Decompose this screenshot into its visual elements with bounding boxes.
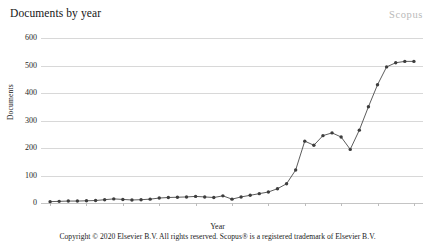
page-title: Documents by year bbox=[10, 7, 101, 19]
x-tick-mark-2020 bbox=[414, 203, 415, 206]
data-point-2010 bbox=[321, 134, 324, 137]
documents-by-year-chart-card: Documents by year Scopus Documents 01002… bbox=[0, 0, 435, 245]
data-point-1989 bbox=[130, 198, 133, 201]
x-axis-title: Year bbox=[0, 222, 435, 231]
x-tick-mark-1992 bbox=[159, 203, 160, 206]
data-point-2018 bbox=[394, 61, 397, 64]
data-point-1985 bbox=[94, 199, 97, 202]
y-tick-400: 400 bbox=[25, 89, 37, 97]
data-point-1981 bbox=[57, 200, 60, 203]
y-tick-300: 300 bbox=[25, 117, 37, 125]
data-point-2016 bbox=[376, 83, 379, 86]
x-tick-mark-2012 bbox=[341, 203, 342, 206]
x-tick-mark-1984 bbox=[86, 203, 87, 206]
y-tick-100: 100 bbox=[25, 172, 37, 180]
data-point-1999 bbox=[221, 194, 224, 197]
scopus-watermark: Scopus bbox=[389, 9, 423, 20]
data-point-2006 bbox=[285, 182, 288, 185]
y-tick-200: 200 bbox=[25, 144, 37, 152]
data-point-1983 bbox=[76, 199, 79, 202]
data-point-1982 bbox=[67, 199, 70, 202]
data-point-2019 bbox=[403, 60, 406, 63]
data-point-2015 bbox=[367, 105, 370, 108]
data-point-2013 bbox=[349, 148, 352, 151]
data-point-1990 bbox=[139, 198, 142, 201]
data-point-2004 bbox=[267, 190, 270, 193]
y-axis-title: Documents bbox=[6, 84, 15, 120]
x-tick-mark-2008 bbox=[305, 203, 306, 206]
y-tick-0: 0 bbox=[33, 199, 37, 207]
x-tick-mark-2004 bbox=[268, 203, 269, 206]
data-point-2000 bbox=[230, 197, 233, 200]
copyright-notice: Copyright © 2020 Elsevier B.V. All right… bbox=[0, 232, 435, 241]
x-tick-mark-1988 bbox=[123, 203, 124, 206]
data-point-1992 bbox=[158, 196, 161, 199]
data-point-1993 bbox=[167, 196, 170, 199]
x-tick-mark-2000 bbox=[232, 203, 233, 206]
data-point-2003 bbox=[258, 192, 261, 195]
data-point-1995 bbox=[185, 195, 188, 198]
x-tick-mark-1980 bbox=[50, 203, 51, 206]
plot-area: 0100200300400500600 19801984198819921996… bbox=[41, 38, 423, 203]
data-point-2012 bbox=[339, 135, 342, 138]
data-point-1984 bbox=[85, 199, 88, 202]
data-point-2007 bbox=[294, 168, 297, 171]
data-point-1997 bbox=[203, 195, 206, 198]
y-tick-600: 600 bbox=[25, 34, 37, 42]
x-tick-mark-1996 bbox=[196, 203, 197, 206]
data-series-documents bbox=[41, 38, 423, 203]
data-point-2020 bbox=[412, 60, 415, 63]
data-point-1996 bbox=[194, 195, 197, 198]
data-point-1980 bbox=[48, 200, 51, 203]
series-markers bbox=[48, 60, 415, 204]
data-point-1987 bbox=[112, 197, 115, 200]
data-point-2002 bbox=[248, 194, 251, 197]
data-point-1994 bbox=[176, 196, 179, 199]
data-point-1998 bbox=[212, 196, 215, 199]
data-point-1991 bbox=[148, 197, 151, 200]
data-point-2001 bbox=[239, 195, 242, 198]
data-point-2009 bbox=[312, 144, 315, 147]
data-point-2008 bbox=[303, 139, 306, 142]
data-point-2011 bbox=[330, 131, 333, 134]
data-point-2014 bbox=[358, 128, 361, 131]
data-point-2017 bbox=[385, 65, 388, 68]
data-point-1988 bbox=[121, 198, 124, 201]
y-tick-500: 500 bbox=[25, 62, 37, 70]
data-point-2005 bbox=[276, 187, 279, 190]
x-tick-mark-2016 bbox=[378, 203, 379, 206]
data-point-1986 bbox=[103, 198, 106, 201]
